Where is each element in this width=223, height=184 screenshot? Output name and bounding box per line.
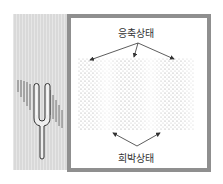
compression-label: 응축상태 xyxy=(118,25,154,40)
compression-arrows xyxy=(90,43,174,60)
rarefaction-label: 희박상태 xyxy=(118,150,154,165)
rarefaction-arrows xyxy=(113,133,160,146)
tuning-fork-icon xyxy=(34,84,50,160)
sound-wave-particles xyxy=(78,58,194,130)
diagram-graphics xyxy=(0,0,223,184)
